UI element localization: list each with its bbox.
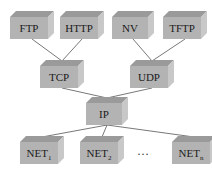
box-top-face [10, 11, 54, 17]
label-text: NET [27, 147, 49, 159]
label-subscript: n [200, 154, 204, 162]
label-text: FTP [20, 22, 39, 34]
box-top-face [40, 60, 84, 66]
connector-ip-net2 [102, 125, 107, 137]
protocol-diagram: FTPHTTPNVTFTPTCPUDPIPNET1NET2NETn … [0, 0, 212, 175]
connector-tftp-udp [152, 39, 185, 61]
label-text: NV [122, 22, 138, 34]
box-label: NV [122, 22, 138, 34]
connector-tcp-ip [62, 88, 107, 98]
protocol-boxes: FTPHTTPNVTFTPTCPUDPIPNET1NET2NETn [10, 11, 212, 164]
label-text: HTTP [65, 22, 93, 34]
box-udp: UDP [130, 60, 174, 88]
label-text: UDP [138, 71, 160, 83]
ellipsis-text: … [137, 144, 149, 158]
box-netn: NETn [172, 136, 212, 164]
box-http: HTTP [60, 11, 104, 39]
box-label: UDP [138, 71, 160, 83]
box-top-face [80, 136, 124, 142]
label-subscript: 1 [48, 154, 52, 162]
box-top-face [112, 11, 154, 17]
box-top-face [163, 11, 207, 17]
connector-ip-netn [107, 125, 194, 137]
box-ip: IP [86, 97, 128, 125]
box-label: TCP [49, 71, 69, 83]
label-text: TCP [49, 71, 69, 83]
connector-ip-net1 [42, 125, 107, 137]
box-top-face [130, 60, 174, 66]
box-label: IP [99, 108, 109, 120]
box-top-face [20, 136, 64, 142]
connector-ftp-tcp [32, 39, 62, 61]
box-top-face [172, 136, 212, 142]
connector-http-tcp [62, 39, 82, 61]
label-text: NET [87, 147, 109, 159]
box-label: TFTP [169, 22, 195, 34]
box-net2: NET2 [80, 136, 124, 164]
box-nv: NV [112, 11, 154, 39]
box-net1: NET1 [20, 136, 64, 164]
box-label: HTTP [65, 22, 93, 34]
box-tftp: TFTP [163, 11, 207, 39]
label-subscript: 2 [108, 154, 112, 162]
box-ftp: FTP [10, 11, 54, 39]
connector-nv-udp [133, 39, 152, 61]
label-text: TFTP [169, 22, 195, 34]
label-text: IP [99, 108, 109, 120]
box-top-face [60, 11, 104, 17]
box-tcp: TCP [40, 60, 84, 88]
box-top-face [86, 97, 128, 103]
label-text: NET [179, 147, 201, 159]
connector-udp-ip [107, 88, 152, 98]
box-label: FTP [20, 22, 39, 34]
